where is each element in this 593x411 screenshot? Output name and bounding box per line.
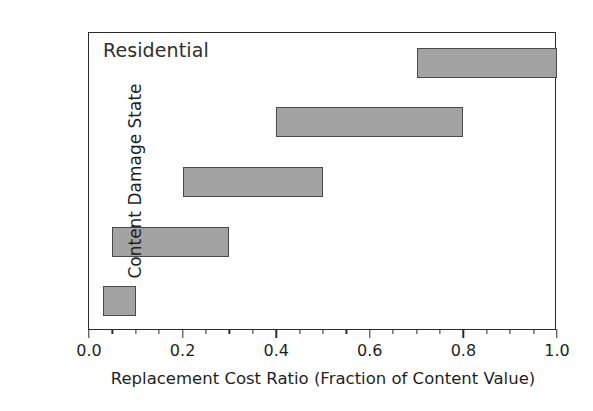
- x-tick-label-0: 0.0: [76, 341, 101, 360]
- x-tick-minor: [393, 329, 394, 334]
- x-tick-major: [556, 329, 557, 338]
- x-tick-minor: [533, 329, 534, 334]
- x-tick-minor: [112, 329, 113, 334]
- x-tick-minor: [322, 329, 323, 334]
- x-tick-minor: [439, 329, 440, 334]
- x-tick-minor: [486, 329, 487, 334]
- x-tick-minor: [159, 329, 160, 334]
- x-tick-label-1: 0.2: [170, 341, 195, 360]
- x-tick-major: [275, 329, 276, 338]
- x-axis-title: Replacement Cost Ratio (Fraction of Cont…: [89, 369, 557, 388]
- panel-annotation-label: Residential: [103, 39, 209, 61]
- x-tick-minor: [229, 329, 230, 334]
- x-tick-minor: [205, 329, 206, 334]
- chart-figure: Residential D1D2D3D4D5 0.00.20.40.60.81.…: [0, 0, 593, 411]
- x-tick-minor: [510, 329, 511, 334]
- x-tick-major: [88, 329, 89, 338]
- x-tick-label-4: 0.8: [451, 341, 476, 360]
- x-tick-major: [182, 329, 183, 338]
- x-tick-label-5: 1.0: [544, 341, 569, 360]
- x-tick-label-2: 0.4: [263, 341, 288, 360]
- x-tick-minor: [252, 329, 253, 334]
- x-tick-label-3: 0.6: [357, 341, 382, 360]
- x-tick-major: [463, 329, 464, 338]
- y-axis-title: Content Damage State: [125, 31, 145, 331]
- bar-d5: [417, 48, 557, 78]
- x-tick-minor: [346, 329, 347, 334]
- plot-area: Residential D1D2D3D4D5 0.00.20.40.60.81.…: [88, 32, 556, 330]
- bar-d3: [183, 167, 323, 197]
- x-tick-minor: [416, 329, 417, 334]
- x-tick-minor: [299, 329, 300, 334]
- x-tick-major: [369, 329, 370, 338]
- bar-d4: [276, 107, 463, 137]
